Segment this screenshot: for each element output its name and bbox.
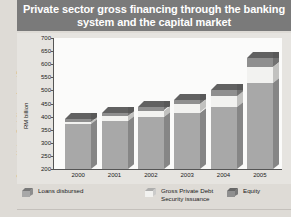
chart-legend: Loans disbursedGross Private Debt Securi… xyxy=(17,184,291,217)
bar-stack xyxy=(174,100,200,169)
bar-segment-face xyxy=(65,124,91,169)
legend-item[interactable]: Gross Private Debt Security issuance xyxy=(145,187,223,202)
swatch-face xyxy=(145,191,153,197)
y-axis-tick-label: 700 xyxy=(41,35,51,41)
bar-segment-side xyxy=(91,120,97,169)
bar-segment xyxy=(102,121,128,169)
cube-swatch-icon xyxy=(22,188,33,197)
legend-item[interactable]: Loans disbursed xyxy=(22,187,132,197)
bar-segment-face xyxy=(211,96,237,107)
legend-label: Loans disbursed xyxy=(38,187,83,195)
bar-stack xyxy=(247,58,273,169)
y-axis-tick-mark xyxy=(51,169,54,170)
bar-segment xyxy=(247,83,273,169)
chart-figure: Private sector gross financing through t… xyxy=(0,0,291,217)
bar-segment-face xyxy=(247,83,273,169)
y-axis-tick-label: 650 xyxy=(41,48,51,54)
bar-segment-face xyxy=(138,117,164,169)
x-axis-tick-label: 2004 xyxy=(211,172,237,178)
bar-segment xyxy=(247,58,273,67)
bar-segment xyxy=(211,107,237,169)
swatch-side xyxy=(153,188,156,196)
swatch-side xyxy=(235,188,238,196)
x-axis-tick-label: 2000 xyxy=(65,172,91,178)
x-axis-tick-label: 2005 xyxy=(247,172,273,178)
bar-segment-side xyxy=(164,112,170,169)
swatch-face xyxy=(227,191,235,197)
bar-group[interactable]: 2001 xyxy=(102,113,128,169)
x-axis-tick-label: 2002 xyxy=(138,172,164,178)
bar-series-container: 200020012002200320042005 xyxy=(54,38,282,169)
legend-label: Gross Private Debt Security issuance xyxy=(161,187,223,202)
chart-title-banner: Private sector gross financing through t… xyxy=(17,0,291,31)
bar-segment-side xyxy=(273,78,279,169)
bar-segment xyxy=(174,113,200,169)
cube-swatch-icon xyxy=(227,188,238,197)
bar-group[interactable]: 2000 xyxy=(65,119,91,169)
bar-segment xyxy=(138,117,164,169)
bar-stack xyxy=(65,119,91,169)
y-axis-tick-label: 350 xyxy=(41,127,51,133)
bar-segment-side xyxy=(200,108,206,169)
legend-label: Equity xyxy=(243,187,260,195)
bar-top-cap-side xyxy=(237,84,243,90)
bar-group[interactable]: 2003 xyxy=(174,100,200,169)
bar-stack xyxy=(211,90,237,169)
bar-top-cap-side xyxy=(273,52,279,58)
chart-panel: RM billion 20025030035040045050055060065… xyxy=(17,33,291,184)
bar-segment xyxy=(247,67,273,83)
y-axis-label: RM billion xyxy=(23,103,29,129)
swatch-side xyxy=(30,188,33,196)
y-axis-tick-label: 300 xyxy=(41,140,51,146)
bar-segment-face xyxy=(247,58,273,67)
y-axis-tick-label: 500 xyxy=(41,87,51,93)
bar-segment xyxy=(211,96,237,107)
bar-segment-face xyxy=(211,107,237,169)
bar-stack xyxy=(102,113,128,169)
footer-divider xyxy=(17,209,291,210)
y-axis-tick-label: 200 xyxy=(41,166,51,172)
bar-segment-face xyxy=(247,67,273,83)
bar-stack xyxy=(138,107,164,169)
bar-group[interactable]: 2005 xyxy=(247,58,273,169)
legend-item[interactable]: Equity xyxy=(227,187,287,197)
bar-segment-side xyxy=(237,103,243,169)
bar-segment xyxy=(65,124,91,169)
y-axis-tick-label: 450 xyxy=(41,101,51,107)
y-axis-tick-label: 600 xyxy=(41,61,51,67)
bar-group[interactable]: 2004 xyxy=(211,90,237,169)
bar-segment xyxy=(174,104,200,112)
y-axis-tick-label: 550 xyxy=(41,74,51,80)
bar-segment-face xyxy=(174,113,200,169)
page-title: Private sector gross financing through t… xyxy=(17,3,291,29)
x-axis-tick-label: 2001 xyxy=(102,172,128,178)
cube-swatch-icon xyxy=(145,188,156,197)
bar-segment-face xyxy=(102,121,128,169)
x-axis-tick-label: 2003 xyxy=(174,172,200,178)
bar-group[interactable]: 2002 xyxy=(138,107,164,169)
y-axis-tick-label: 250 xyxy=(41,153,51,159)
swatch-face xyxy=(22,191,30,197)
bar-segment-side xyxy=(128,116,134,169)
plot-area: 200250300350400450500550600650700 200020… xyxy=(53,38,282,170)
y-axis-tick-label: 400 xyxy=(41,114,51,120)
bar-segment-face xyxy=(174,104,200,112)
